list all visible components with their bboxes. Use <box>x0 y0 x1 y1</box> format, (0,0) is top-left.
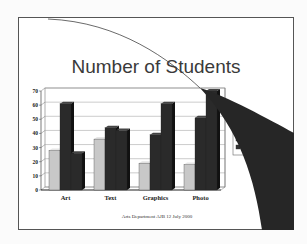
grid-diagonal <box>41 130 45 133</box>
x-tick-label: Photo <box>192 194 208 201</box>
legend-swatch <box>236 137 240 141</box>
y-tick-label: 20 <box>33 159 39 165</box>
bar <box>94 139 105 190</box>
bar <box>105 128 116 190</box>
y-tick-label: 50 <box>33 116 39 122</box>
grid-diagonal <box>41 102 45 105</box>
legend-swatch <box>236 129 240 133</box>
y-tick-label: 60 <box>33 102 39 108</box>
bar <box>184 165 195 190</box>
y-tick-label: 40 <box>33 130 39 136</box>
grid-diagonal <box>41 145 45 148</box>
bar-side <box>127 129 130 190</box>
y-tick-label: 70 <box>33 88 39 94</box>
bar <box>71 153 82 190</box>
grid-diagonal <box>41 88 45 91</box>
bar <box>161 104 172 190</box>
y-tick-label: 10 <box>33 173 39 179</box>
bar-chart: 010203040506070ArtTextGraphicsPhotoTETE <box>19 18 295 231</box>
x-tick-label: Graphics <box>143 194 169 201</box>
x-tick-label: Art <box>61 194 72 201</box>
bar-side <box>82 151 85 190</box>
bar <box>139 163 150 190</box>
grid-diagonal <box>41 159 45 162</box>
bar-side <box>172 102 175 190</box>
legend-swatch <box>236 145 240 149</box>
bar <box>49 150 60 190</box>
bar <box>60 104 71 190</box>
grid-diagonal <box>41 116 45 119</box>
bar <box>150 135 161 190</box>
y-tick-label: 0 <box>35 187 38 193</box>
bar <box>206 91 217 190</box>
legend-label: TE <box>242 144 250 150</box>
grid-diagonal <box>41 173 45 176</box>
bar <box>195 118 206 190</box>
slide-frame: Number of Students 010203040506070ArtTex… <box>18 17 294 230</box>
x-tick-label: Text <box>104 194 117 201</box>
legend-label: TE <box>242 136 250 142</box>
footer-text: Arts Department AJB 12 July 2000 <box>19 214 295 219</box>
bar-side <box>217 89 220 190</box>
floor-edge <box>221 187 225 190</box>
bar <box>116 131 127 190</box>
y-tick-label: 30 <box>33 145 39 151</box>
